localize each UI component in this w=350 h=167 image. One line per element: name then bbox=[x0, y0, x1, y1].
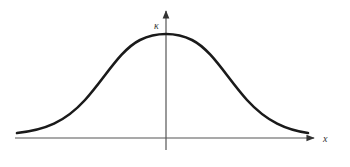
x-axis-label: x bbox=[322, 133, 328, 144]
y-axis-label: κ bbox=[154, 20, 159, 31]
bell-curve bbox=[17, 34, 308, 133]
bell-curve-diagram: κ x bbox=[0, 0, 350, 167]
